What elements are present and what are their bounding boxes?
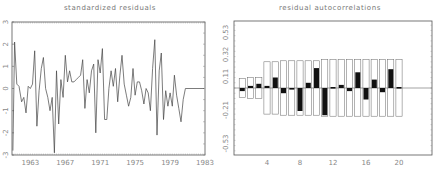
y-tick-label: 2 (2, 42, 10, 46)
y-tick-label: 0.11 (222, 69, 230, 85)
y-tick-label: 1 (2, 64, 10, 68)
x-tick-label: 8 (298, 159, 302, 167)
acf-bar (397, 87, 402, 89)
x-tick-label: 1963 (21, 159, 39, 167)
x-tick-label: 12 (329, 159, 338, 167)
acf-bar (331, 87, 336, 89)
right-chart-title: residual autocorrelations (279, 4, 381, 12)
x-tick-label: 20 (395, 159, 404, 167)
left-x-axis: 196319671971197519791983 (13, 22, 214, 167)
acf-bar (273, 78, 278, 89)
acf-bar (380, 88, 385, 92)
x-tick-label: 1971 (91, 159, 109, 167)
left-chart-title: standardized residuals (64, 4, 156, 12)
acf-bar (248, 86, 253, 88)
y-tick-label: -1 (2, 107, 10, 114)
acf-bar (289, 88, 294, 90)
y-tick-label: 0.32 (222, 47, 230, 63)
y-tick-label: 3 (2, 20, 10, 24)
acf-bar (322, 88, 327, 115)
x-tick-label: 1967 (56, 159, 74, 167)
x-tick-label: 1975 (126, 159, 144, 167)
x-tick-label: 4 (265, 159, 270, 167)
y-tick-label: -3 (2, 152, 10, 159)
y-tick-label: 0 (2, 86, 10, 90)
acf-bar (372, 80, 377, 88)
acf-bar (256, 84, 261, 88)
acf-bar (314, 68, 319, 88)
chart-canvas: standardized residuals -3-2-10123 196319… (0, 0, 435, 171)
acf-bar (281, 88, 286, 93)
acf-bar (240, 88, 245, 91)
x-tick-label: 1983 (196, 159, 214, 167)
right-x-axis: 48121620 (265, 159, 404, 167)
acf-bar (298, 88, 303, 111)
acf-bar (265, 86, 270, 88)
acf-bar (355, 72, 360, 88)
y-tick-label: -0.53 (222, 134, 230, 152)
acf-bar (388, 69, 393, 88)
x-tick-label: 16 (362, 159, 371, 167)
x-tick-label: 1979 (161, 159, 179, 167)
acf-bar (364, 88, 369, 100)
residual-line (13, 40, 204, 153)
acf-bar (347, 88, 352, 91)
residual-autocorrelations-panel: residual autocorrelations -0.53-0.210.11… (222, 4, 432, 167)
y-tick-label: -2 (2, 129, 10, 136)
acf-bar (306, 83, 311, 88)
standardized-residuals-panel: standardized residuals -3-2-10123 196319… (2, 4, 214, 167)
y-tick-label: 0.53 (222, 25, 230, 41)
acf-bar (339, 85, 344, 88)
y-tick-label: -0.21 (222, 101, 230, 119)
